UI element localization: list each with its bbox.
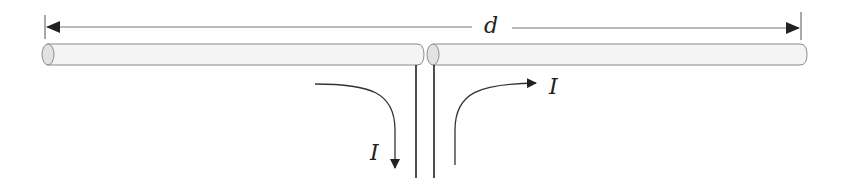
right-arm-rod — [427, 44, 807, 65]
dimension-arrow-left-icon — [46, 21, 60, 33]
current-arrow-down-icon — [315, 84, 395, 168]
current-label-left: I — [369, 140, 380, 165]
dipole-diagram: d I I — [0, 0, 841, 188]
current-label-right: I — [548, 74, 559, 99]
dimension-line: d — [45, 12, 801, 40]
left-arm-rod — [42, 44, 424, 65]
left-arm-end-cap — [42, 44, 54, 65]
dimension-arrow-right-icon — [786, 22, 800, 34]
dimension-label: d — [484, 13, 498, 38]
current-arrow-right-icon — [455, 83, 536, 165]
right-arm-end-cap — [427, 44, 439, 65]
